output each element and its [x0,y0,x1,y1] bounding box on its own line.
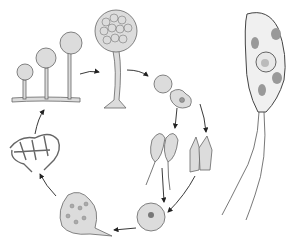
swarm-cells-stage [146,133,178,190]
reticulate-stage [10,134,59,172]
sorocarp-stage [95,10,137,108]
myxamoebae-stage [190,136,212,172]
sporangia-stage [12,32,82,102]
life-cycle-diagram [0,0,297,244]
enlarged-swarm-cell [222,13,285,220]
plasmodium-stage [60,192,112,236]
zygote-stage [137,203,165,231]
germination-stage [154,75,191,108]
